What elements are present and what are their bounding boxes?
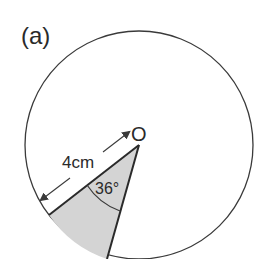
angle-label: 36° bbox=[95, 180, 119, 197]
dimension-arrow-upper bbox=[103, 132, 129, 152]
center-label-O: O bbox=[131, 123, 147, 145]
dimension-arrow-lower bbox=[41, 178, 70, 200]
radius-label: 4cm bbox=[62, 153, 94, 172]
circle-sector-diagram: (a) O 4cm 36° bbox=[0, 0, 273, 259]
part-label: (a) bbox=[21, 22, 50, 49]
